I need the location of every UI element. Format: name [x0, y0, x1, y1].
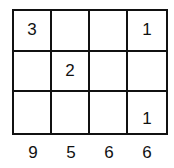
grid-cell[interactable] — [52, 92, 90, 133]
column-label: 9 — [14, 143, 52, 163]
grid-cell[interactable] — [90, 92, 128, 133]
grid-cell[interactable] — [14, 92, 52, 133]
column-label: 6 — [90, 143, 128, 163]
puzzle-grid: 3 1 2 1 — [12, 9, 168, 135]
grid-cell[interactable] — [128, 52, 166, 93]
grid-cell[interactable]: 1 — [128, 11, 166, 52]
grid-cell[interactable]: 2 — [52, 52, 90, 93]
column-labels: 9 5 6 6 — [14, 143, 166, 163]
grid-cell[interactable] — [14, 52, 52, 93]
grid-cell[interactable] — [52, 11, 90, 52]
grid-cell[interactable]: 3 — [14, 11, 52, 52]
grid-cell[interactable] — [90, 11, 128, 52]
column-label: 5 — [52, 143, 90, 163]
grid-cell[interactable] — [90, 52, 128, 93]
column-label: 6 — [128, 143, 166, 163]
grid-cell[interactable]: 1 — [128, 92, 166, 133]
